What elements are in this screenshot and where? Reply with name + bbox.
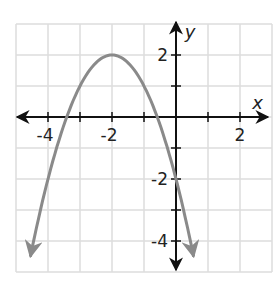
- axes: [17, 22, 268, 270]
- x-tick-label: -2: [101, 125, 118, 145]
- parabola-graph: -4-222-2-4xy: [0, 0, 280, 288]
- y-tick-label: 2: [157, 45, 168, 65]
- y-tick-label: -2: [151, 169, 168, 189]
- x-tick-label: 2: [235, 125, 246, 145]
- x-axis-label: x: [251, 92, 263, 113]
- y-axis-label: y: [184, 21, 196, 42]
- x-tick-label: -4: [37, 125, 54, 145]
- grid-lines: [16, 24, 272, 272]
- y-tick-label: -4: [151, 231, 168, 251]
